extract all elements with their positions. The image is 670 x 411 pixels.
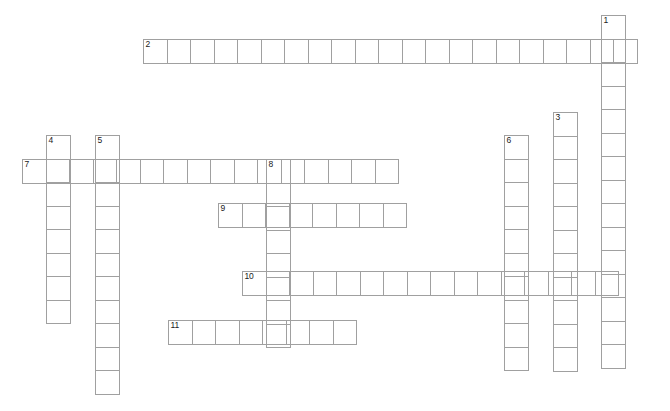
crossword-cell[interactable]: 7 bbox=[22, 159, 47, 184]
crossword-cell[interactable] bbox=[95, 276, 120, 301]
crossword-cell[interactable] bbox=[553, 300, 578, 325]
crossword-cell[interactable] bbox=[519, 39, 544, 64]
crossword-cell[interactable] bbox=[553, 136, 578, 161]
crossword-cell[interactable] bbox=[477, 271, 502, 296]
crossword-cell[interactable] bbox=[425, 39, 450, 64]
crossword-cell[interactable] bbox=[336, 203, 361, 228]
crossword-cell[interactable] bbox=[237, 39, 262, 64]
crossword-cell[interactable] bbox=[95, 253, 120, 278]
crossword-cell[interactable] bbox=[601, 109, 626, 134]
crossword-cell[interactable] bbox=[46, 182, 71, 207]
crossword-cell[interactable] bbox=[239, 320, 264, 345]
crossword-cell[interactable] bbox=[284, 39, 309, 64]
crossword-cell[interactable] bbox=[504, 300, 529, 325]
crossword-cell[interactable] bbox=[601, 321, 626, 346]
crossword-cell[interactable] bbox=[571, 271, 596, 296]
crossword-cell[interactable]: 10 bbox=[242, 271, 267, 296]
crossword-cell[interactable] bbox=[234, 159, 259, 184]
crossword-cell[interactable] bbox=[46, 206, 71, 231]
crossword-cell[interactable]: 11 bbox=[168, 320, 193, 345]
crossword-cell[interactable] bbox=[359, 203, 384, 228]
crossword-cell[interactable] bbox=[543, 39, 568, 64]
crossword-cell[interactable] bbox=[402, 39, 427, 64]
crossword-cell[interactable] bbox=[190, 39, 215, 64]
crossword-cell[interactable] bbox=[328, 159, 353, 184]
crossword-cell[interactable] bbox=[360, 271, 385, 296]
crossword-cell[interactable] bbox=[95, 323, 120, 348]
crossword-cell[interactable] bbox=[504, 229, 529, 254]
crossword-cell[interactable] bbox=[93, 159, 118, 184]
crossword-cell[interactable] bbox=[95, 300, 120, 325]
crossword-cell[interactable] bbox=[449, 39, 474, 64]
crossword-cell[interactable] bbox=[430, 271, 455, 296]
crossword-cell[interactable] bbox=[95, 206, 120, 231]
crossword-cell[interactable] bbox=[601, 62, 626, 87]
crossword-cell[interactable] bbox=[601, 86, 626, 111]
crossword-cell[interactable] bbox=[383, 203, 408, 228]
crossword-cell[interactable] bbox=[566, 39, 591, 64]
crossword-cell[interactable] bbox=[95, 370, 120, 395]
crossword-cell[interactable] bbox=[553, 159, 578, 184]
crossword-cell[interactable]: 2 bbox=[143, 39, 168, 64]
crossword-cell[interactable] bbox=[242, 203, 267, 228]
crossword-cell[interactable]: 4 bbox=[46, 135, 71, 160]
crossword-cell[interactable] bbox=[504, 323, 529, 348]
crossword-cell[interactable] bbox=[375, 159, 400, 184]
crossword-cell[interactable] bbox=[261, 39, 286, 64]
crossword-cell[interactable] bbox=[46, 253, 71, 278]
crossword-cell[interactable] bbox=[601, 227, 626, 252]
crossword-cell[interactable] bbox=[214, 39, 239, 64]
crossword-cell[interactable] bbox=[215, 320, 240, 345]
crossword-cell[interactable] bbox=[601, 156, 626, 181]
crossword-cell[interactable] bbox=[553, 183, 578, 208]
crossword-cell[interactable] bbox=[378, 39, 403, 64]
crossword-cell[interactable] bbox=[601, 297, 626, 322]
crossword-cell[interactable]: 1 bbox=[601, 15, 626, 40]
crossword-cell[interactable] bbox=[553, 206, 578, 231]
crossword-cell[interactable] bbox=[95, 182, 120, 207]
crossword-cell[interactable] bbox=[383, 271, 408, 296]
crossword-cell[interactable] bbox=[504, 159, 529, 184]
crossword-cell[interactable] bbox=[524, 271, 549, 296]
crossword-cell[interactable] bbox=[553, 230, 578, 255]
crossword-cell[interactable] bbox=[472, 39, 497, 64]
crossword-cell[interactable] bbox=[496, 39, 521, 64]
crossword-cell[interactable] bbox=[454, 271, 479, 296]
crossword-cell[interactable] bbox=[504, 347, 529, 372]
crossword-cell[interactable] bbox=[46, 276, 71, 301]
crossword-cell[interactable] bbox=[504, 206, 529, 231]
crossword-cell[interactable] bbox=[69, 159, 94, 184]
crossword-cell[interactable] bbox=[286, 320, 311, 345]
crossword-cell[interactable] bbox=[262, 320, 287, 345]
crossword-cell[interactable] bbox=[355, 39, 380, 64]
crossword-cell[interactable] bbox=[46, 300, 71, 325]
crossword-cell[interactable] bbox=[289, 203, 314, 228]
crossword-cell[interactable] bbox=[289, 271, 314, 296]
crossword-cell[interactable] bbox=[46, 159, 71, 184]
crossword-cell[interactable] bbox=[336, 271, 361, 296]
crossword-cell[interactable] bbox=[601, 203, 626, 228]
crossword-cell[interactable]: 8 bbox=[266, 159, 291, 184]
crossword-cell[interactable] bbox=[312, 203, 337, 228]
crossword-cell[interactable] bbox=[501, 271, 526, 296]
crossword-cell[interactable] bbox=[601, 180, 626, 205]
crossword-cell[interactable] bbox=[548, 271, 573, 296]
crossword-cell[interactable] bbox=[187, 159, 212, 184]
crossword-cell[interactable]: 3 bbox=[553, 112, 578, 137]
crossword-cell[interactable] bbox=[140, 159, 165, 184]
crossword-cell[interactable] bbox=[601, 133, 626, 158]
crossword-cell[interactable]: 5 bbox=[95, 135, 120, 160]
crossword-cell[interactable] bbox=[331, 39, 356, 64]
crossword-cell[interactable] bbox=[504, 182, 529, 207]
crossword-cell[interactable] bbox=[116, 159, 141, 184]
crossword-cell[interactable] bbox=[601, 344, 626, 369]
crossword-cell[interactable] bbox=[595, 271, 620, 296]
crossword-cell[interactable] bbox=[95, 347, 120, 372]
crossword-cell[interactable] bbox=[590, 39, 615, 64]
crossword-cell[interactable] bbox=[309, 320, 334, 345]
crossword-cell[interactable] bbox=[192, 320, 217, 345]
crossword-cell[interactable] bbox=[163, 159, 188, 184]
crossword-cell[interactable] bbox=[265, 203, 290, 228]
crossword-cell[interactable] bbox=[308, 39, 333, 64]
crossword-cell[interactable] bbox=[613, 39, 638, 64]
